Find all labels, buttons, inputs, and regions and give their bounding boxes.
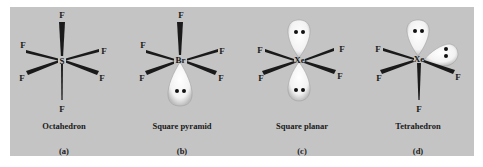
atom-f-top: F (178, 10, 184, 20)
atom-f-lower-right: F (218, 73, 224, 83)
bond-lower-left (26, 60, 60, 75)
bond-axial-bottom (417, 63, 421, 100)
atom-central-xe: Xe (294, 55, 305, 65)
lone-pair-electron (444, 47, 448, 51)
atom-f-upper-left: F (140, 40, 146, 50)
bond-lower-left (145, 61, 176, 75)
bond-lower-right (186, 61, 217, 75)
lone-pair-electron (294, 88, 298, 92)
bond-lower-left (262, 61, 295, 75)
bond-axial-top (177, 22, 183, 56)
atom-f-upper-right: F (219, 46, 225, 56)
lone-pair-electron (413, 29, 417, 33)
geometry-name-a: Octahedron (42, 121, 86, 131)
atom-f-bottom: F (59, 104, 65, 114)
atom-f-lower-left: F (376, 73, 382, 83)
atom-f-lower-left: F (139, 73, 145, 83)
lone-pair-lobe-bottom (288, 62, 310, 101)
lone-pair-lobe-bottom (168, 62, 192, 106)
bond-lower-left (380, 60, 414, 74)
bond-upper-left (383, 48, 414, 60)
panel-a-octahedron: F F F F F F S Octahedron (a) (19, 10, 107, 156)
geometry-name-d: Tetrahedron (395, 121, 441, 131)
lone-pair-electron (444, 54, 448, 58)
atom-central-xe: Xe (414, 54, 425, 64)
molecular-geometry-figure: F F F F F F S Octahedron (a) F F F F F B… (0, 0, 483, 167)
bond-upper-left (265, 49, 294, 61)
panel-c-square-planar: F F F F Xe Square planar (c) (257, 20, 345, 156)
atom-f-upper-left: F (375, 44, 381, 54)
atom-f-upper-right: F (339, 44, 345, 54)
bond-upper-left (146, 50, 175, 61)
panel-d-tetrahedron: F F F F Xe Tetrahedron (d) (375, 20, 461, 156)
bond-upper-right (64, 49, 99, 61)
panel-b-square-pyramid: F F F F F Br Square pyramid (b) (139, 10, 225, 156)
atom-f-bottom: F (416, 104, 422, 114)
lone-pair-electron (175, 89, 179, 93)
atom-f-lower-right: F (455, 72, 461, 82)
lone-pair-electron (294, 30, 298, 34)
lone-pair-electron (301, 88, 305, 92)
geometry-name-c: Square planar (276, 121, 328, 131)
atom-f-top: F (59, 10, 65, 20)
bond-lower-right (64, 60, 99, 75)
panel-label-b: (b) (177, 146, 188, 156)
bond-upper-right (305, 48, 334, 61)
atom-f-upper-left: F (20, 40, 26, 50)
lone-pair-lobe-top (407, 20, 429, 56)
atom-f-upper-left: F (257, 45, 263, 55)
atom-f-lower-right: F (99, 73, 105, 83)
bond-upper-left (26, 50, 60, 61)
panel-label-c: (c) (297, 146, 307, 156)
atom-f-lower-left: F (19, 73, 25, 83)
atom-f-upper-right: F (101, 46, 107, 56)
atom-f-lower-right: F (337, 71, 343, 81)
atom-central-s: S (59, 56, 64, 66)
bond-axial-bottom (61, 62, 63, 100)
panel-label-a: (a) (59, 146, 69, 156)
lone-pair-lobe-top (288, 20, 310, 58)
bond-lower-right (304, 61, 336, 74)
atom-f-lower-left: F (258, 73, 264, 83)
atom-central-br: Br (176, 55, 186, 65)
bond-axial-top (59, 22, 65, 58)
bond-upper-right (186, 49, 218, 61)
lone-pair-electron (301, 30, 305, 34)
lone-pair-electron (420, 29, 424, 33)
lone-pair-electron (182, 89, 186, 93)
geometry-name-b: Square pyramid (152, 121, 211, 131)
panel-label-d: (d) (413, 146, 424, 156)
